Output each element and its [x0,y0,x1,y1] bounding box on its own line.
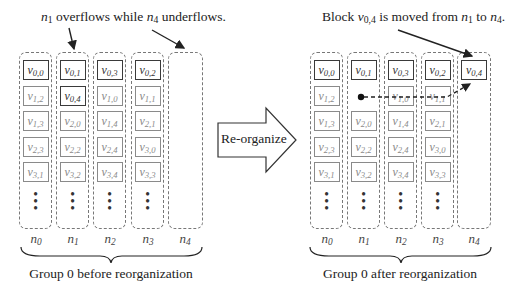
annotation-arrow-v04 [398,30,472,56]
move-path-dashed [364,84,470,97]
annotation-arrow-n4 [152,30,184,48]
move-origin-dot [358,94,364,100]
annotation-arrow-n1 [69,28,74,49]
reorganize-label: Re-organize [221,131,287,147]
left-brace [21,247,202,263]
diagram-overlay [0,0,510,295]
right-brace [310,247,491,263]
